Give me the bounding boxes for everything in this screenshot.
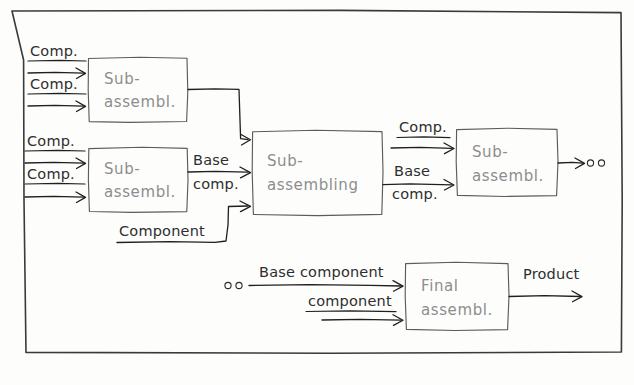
node-sub-assembly-2: Sub- assembl.: [88, 147, 188, 212]
edge-label-comp-3: Comp.: [27, 133, 75, 149]
node-label-sub3-line2: assembl.: [472, 167, 544, 185]
node-label-subassembling-line1: Sub-: [267, 152, 303, 170]
edge-base-component-to-final: Base component: [249, 264, 403, 291]
node-sub-assembly-1: Sub- assembl.: [88, 57, 188, 122]
ellipsis-dots-bottom: [225, 282, 242, 288]
edge-label-product: Product: [523, 266, 580, 282]
node-final-assembly: Final assembl.: [405, 262, 509, 330]
node-label-sub2-line2: assembl.: [104, 183, 176, 201]
edge-label-comp-4: Comp.: [27, 166, 75, 182]
node-label-final-line1: Final: [421, 277, 459, 295]
edge-sub2-to-subassembling: Base comp.: [188, 152, 251, 192]
edge-component-to-subassembling: Component: [117, 201, 251, 243]
edge-base-comp-to-sub3: Base comp.: [383, 163, 454, 202]
node-label-sub3-line1: Sub-: [472, 143, 508, 161]
edge-component-to-final: component: [306, 293, 403, 325]
node-label-sub1-line2: assembl.: [104, 93, 176, 111]
node-label-sub1-line1: Sub-: [104, 70, 140, 88]
node-sub-assembly-3: Sub- assembl.: [456, 128, 558, 196]
edge-label-base-1: Base: [193, 152, 229, 168]
node-label-subassembling-line2: assembling: [267, 176, 359, 194]
edge-label-comp-base-1: comp.: [193, 176, 239, 192]
edge-label-component-bottom: component: [308, 293, 392, 309]
edge-comp-input-4: Comp.: [25, 166, 86, 203]
edge-final-to-product: Product: [509, 266, 582, 302]
edge-label-out-comp: Comp.: [399, 119, 447, 135]
node-label-sub2-line1: Sub-: [104, 160, 140, 178]
edge-comp-to-sub3: Comp.: [391, 119, 454, 154]
node-label-final-line2: assembl.: [421, 301, 493, 319]
ellipsis-dots-right: [587, 160, 604, 166]
edge-comp-input-1: Comp.: [28, 43, 86, 79]
edge-label-comp-1: Comp.: [30, 43, 78, 59]
edge-sub1-to-subassembling: [188, 89, 251, 145]
diagram-canvas: Sub- assembl. Sub- assembl. Sub- assembl…: [0, 0, 634, 385]
edge-label-component-lower: Component: [119, 223, 205, 239]
edge-comp-input-3: Comp.: [25, 133, 86, 169]
edge-label-base-component-bottom: Base component: [259, 264, 384, 280]
edge-label-out-base-a: Base: [394, 163, 430, 179]
edge-label-out-base-b: comp.: [392, 186, 438, 202]
edge-sub3-to-ellipsis: [558, 158, 585, 169]
node-sub-assembling: Sub- assembling: [252, 130, 383, 215]
edge-comp-input-2: Comp.: [28, 76, 86, 112]
edge-label-comp-2: Comp.: [30, 76, 78, 92]
assembly-flow-diagram: Sub- assembl. Sub- assembl. Sub- assembl…: [0, 0, 634, 385]
